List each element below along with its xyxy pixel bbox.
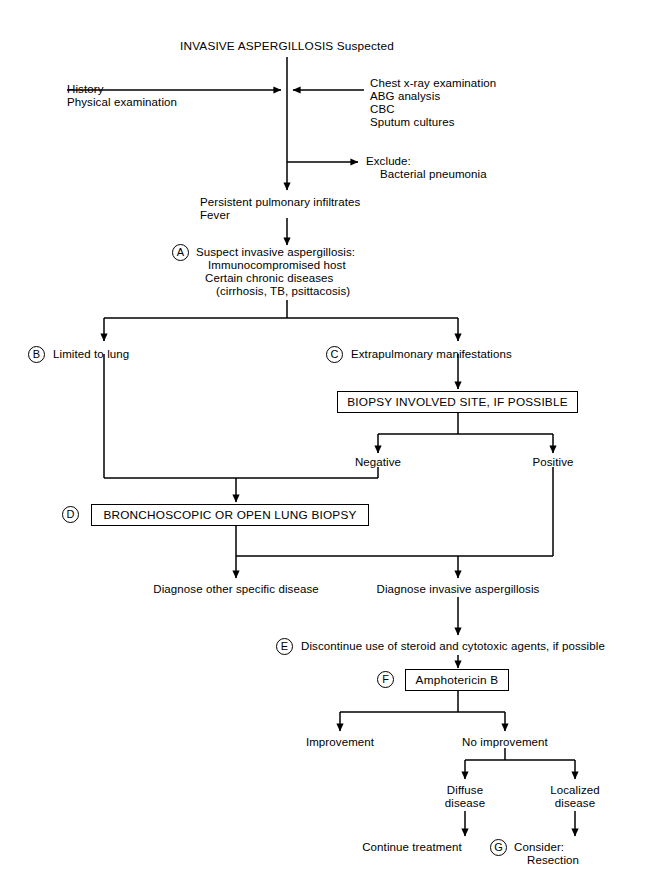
- biopsy-involved-site-box: BIOPSY INVOLVED SITE, IF POSSIBLE: [337, 391, 578, 413]
- input-physical-exam-label: Physical examination: [67, 96, 177, 110]
- amphotericin-b-box: Amphotericin B: [405, 669, 509, 691]
- suspect-heading: Suspect invasive aspergillosis:: [196, 246, 355, 260]
- workup-sputum-label: Sputum cultures: [370, 116, 455, 130]
- workup-abg-label: ABG analysis: [370, 90, 440, 104]
- workup-cbc-label: CBC: [370, 103, 395, 117]
- marker-a-circle: A: [172, 244, 189, 261]
- outcome-improvement-label: Improvement: [306, 736, 374, 750]
- page-title: INVASIVE ASPERGILLOSIS Suspected: [180, 40, 394, 54]
- diffuse-disease-line2: disease: [445, 797, 485, 811]
- outcome-no-improvement-label: No improvement: [462, 736, 548, 750]
- flowchart-connectors: [0, 0, 647, 892]
- diagnose-invasive-aspergillosis-label: Diagnose invasive aspergillosis: [377, 583, 540, 597]
- marker-e-circle: E: [276, 638, 293, 655]
- findings-infiltrates-label: Persistent pulmonary infiltrates: [200, 196, 360, 210]
- localized-disease-line2: disease: [555, 797, 595, 811]
- suspect-chronic-diseases-label: Certain chronic diseases: [205, 272, 333, 286]
- discontinue-steroid-cytotoxic-label: Discontinue use of steroid and cytotoxic…: [301, 640, 605, 654]
- marker-d-circle: D: [62, 506, 79, 523]
- workup-chest-xray-label: Chest x-ray examination: [370, 77, 496, 91]
- exclude-heading: Exclude:: [366, 155, 411, 169]
- marker-c-circle: C: [326, 346, 343, 363]
- continue-treatment-label: Continue treatment: [362, 841, 462, 855]
- consider-heading: Consider:: [514, 841, 564, 855]
- marker-f-circle: F: [377, 671, 394, 688]
- diagnose-other-disease-label: Diagnose other specific disease: [153, 583, 318, 597]
- suspect-immunocompromised-label: Immunocompromised host: [208, 259, 346, 273]
- input-history-label: History: [67, 83, 103, 97]
- bronchoscopic-open-lung-biopsy-box: BRONCHOSCOPIC OR OPEN LUNG BIOPSY: [91, 504, 369, 526]
- consider-resection-label: Resection: [527, 854, 579, 868]
- suspect-chronic-examples-label: (cirrhosis, TB, psittacosis): [216, 285, 350, 299]
- diffuse-disease-line1: Diffuse: [447, 784, 483, 798]
- findings-fever-label: Fever: [200, 209, 230, 223]
- biopsy-result-positive-label: Positive: [532, 456, 573, 470]
- flowchart-page: INVASIVE ASPERGILLOSIS Suspected History…: [0, 0, 647, 892]
- marker-g-circle: G: [490, 839, 507, 856]
- biopsy-result-negative-label: Negative: [355, 456, 401, 470]
- exclude-item-bacterial-pneumonia: Bacterial pneumonia: [380, 168, 487, 182]
- marker-b-circle: B: [28, 346, 45, 363]
- localized-disease-line1: Localized: [550, 784, 600, 798]
- branch-extrapulmonary-label: Extrapulmonary manifestations: [351, 348, 512, 362]
- branch-limited-to-lung-label: Limited to lung: [53, 348, 129, 362]
